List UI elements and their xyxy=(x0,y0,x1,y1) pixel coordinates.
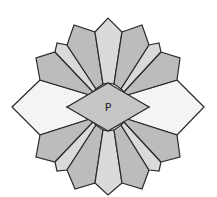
rosette-svg: P xyxy=(0,0,217,197)
rosette-diagram: P xyxy=(0,0,217,197)
center-label: P xyxy=(105,101,112,114)
